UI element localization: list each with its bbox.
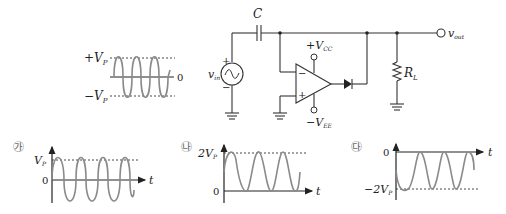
ground-icon (273, 113, 287, 119)
svg-text:−: − (222, 82, 230, 93)
svg-text:㉮: ㉮ (13, 141, 24, 154)
svg-text:t: t (316, 185, 321, 198)
svg-text:0: 0 (42, 175, 48, 186)
vee-terminal (311, 107, 317, 113)
svg-text:t: t (488, 146, 493, 159)
svg-text:C: C (253, 7, 262, 21)
capacitor-icon (257, 25, 261, 41)
svg-text:2VP: 2VP (197, 147, 218, 160)
output-terminal (437, 29, 445, 37)
svg-text:0: 0 (383, 147, 389, 158)
clamper-circuit: + − vin C vout − + +VCC (208, 7, 465, 129)
svg-text:+: + (222, 55, 230, 66)
svg-text:+VCC: +VCC (306, 39, 333, 52)
svg-text:t: t (149, 174, 154, 187)
svg-text:−VP: −VP (84, 89, 108, 105)
option-ga: ㉮ VP 0 t (13, 141, 154, 203)
svg-text:vout: vout (448, 27, 465, 40)
svg-text:RL: RL (403, 66, 418, 82)
diode-icon (344, 79, 352, 89)
svg-text:0: 0 (177, 72, 183, 83)
svg-text:+VP: +VP (84, 51, 108, 67)
vcc-terminal (311, 54, 317, 60)
svg-text:㉯: ㉯ (181, 141, 192, 154)
ground-icon (225, 113, 239, 119)
resistor-icon (393, 62, 401, 81)
svg-text:VP: VP (34, 154, 47, 167)
svg-text:−: − (298, 68, 306, 79)
svg-text:−2VP: −2VP (364, 183, 393, 196)
svg-text:vin: vin (208, 68, 220, 81)
svg-text:㉰: ㉰ (351, 141, 362, 154)
ground-icon (390, 104, 404, 110)
input-waveform: +VP −VP 0 (84, 51, 183, 105)
diagram-canvas: +VP −VP 0 + − vin C vout (0, 0, 506, 214)
option-na: ㉯ 2VP 0 t (181, 141, 321, 203)
option-da: ㉰ 0 −2VP t (351, 141, 493, 200)
svg-text:−VEE: −VEE (306, 116, 333, 129)
svg-text:0: 0 (213, 186, 219, 197)
svg-text:+: + (298, 89, 306, 100)
